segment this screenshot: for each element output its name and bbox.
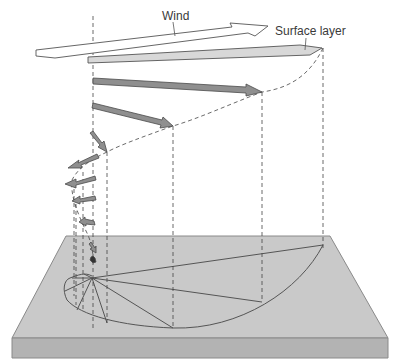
block-top-face xyxy=(12,236,388,338)
block-front-face xyxy=(12,338,388,358)
wind-label: Wind xyxy=(162,9,189,23)
surface-layer-label: Surface layer xyxy=(275,24,346,38)
depth-arrow-2 xyxy=(92,103,173,128)
ocean-block xyxy=(12,236,388,358)
depth-arrow-6 xyxy=(72,196,96,204)
spiral-arrows xyxy=(65,78,262,263)
depth-arrow-1 xyxy=(93,78,262,96)
depth-arrow-7 xyxy=(79,217,95,226)
ekman-spiral-diagram: Wind Surface layer xyxy=(0,0,401,364)
depth-arrow-3 xyxy=(90,131,107,152)
depth-arrow-5 xyxy=(65,176,96,188)
depth-arrow-4 xyxy=(68,154,99,168)
